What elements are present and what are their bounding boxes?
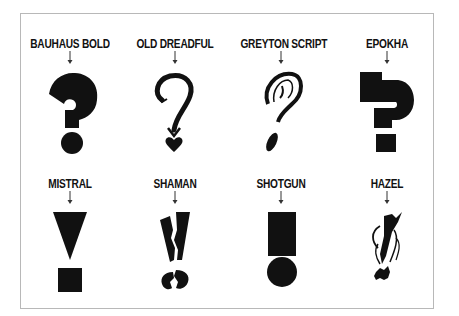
font-label: SHAMAN (134, 176, 215, 191)
arrow-down-icon (383, 51, 391, 65)
specimen-greyton-script: GREYTON SCRIPT (229, 36, 333, 176)
arrow-down-icon (277, 191, 285, 205)
font-label: MISTRAL (29, 176, 110, 191)
bauhaus-question-mark-icon (35, 68, 105, 154)
specimen-shotgun: SHOTGUN (229, 176, 333, 316)
arrow-down-icon (171, 191, 179, 205)
font-label: SHOTGUN (240, 176, 321, 191)
mistral-exclamation-mark-icon (35, 208, 105, 294)
font-label: GREYTON SCRIPT (240, 36, 321, 51)
specimen-shaman: SHAMAN (123, 176, 227, 316)
greyton-script-question-mark-icon (246, 68, 316, 154)
specimen-hazel: HAZEL (335, 176, 439, 316)
shotgun-exclamation-mark-icon (246, 208, 316, 294)
font-label: EPOKHA (346, 36, 427, 51)
specimen-old-dreadful: OLD DREADFUL (123, 36, 227, 176)
specimen-bauhaus-bold: BAUHAUS BOLD (18, 36, 122, 176)
arrow-down-icon (66, 191, 74, 205)
font-label: OLD DREADFUL (134, 36, 215, 51)
shaman-exclamation-mark-icon (140, 208, 210, 294)
font-label: HAZEL (346, 176, 427, 191)
hazel-exclamation-mark-icon (352, 208, 422, 294)
font-label: BAUHAUS BOLD (29, 36, 110, 51)
epokha-question-mark-icon (352, 68, 422, 154)
arrow-down-icon (383, 191, 391, 205)
arrow-down-icon (171, 51, 179, 65)
old-dreadful-question-mark-icon (140, 68, 210, 154)
arrow-down-icon (66, 51, 74, 65)
specimen-epokha: EPOKHA (335, 36, 439, 176)
specimen-mistral: MISTRAL (18, 176, 122, 316)
arrow-down-icon (277, 51, 285, 65)
